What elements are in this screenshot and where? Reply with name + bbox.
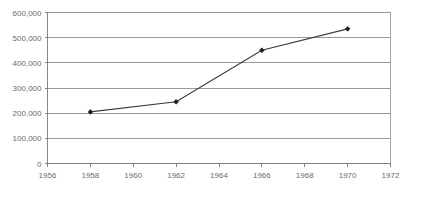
y-axis-tick-label: 600,000 xyxy=(13,9,42,18)
y-axis-tick-label: 500,000 xyxy=(13,34,42,43)
y-axis-tick-label: 200,000 xyxy=(13,109,42,118)
data-point-marker xyxy=(259,48,264,53)
y-axis-tick-label: 300,000 xyxy=(13,84,42,93)
x-axis-tick-label: 1962 xyxy=(167,171,185,180)
data-series xyxy=(90,29,347,112)
y-axis-tick-labels: 600,000500,000400,000300,000200,000100,0… xyxy=(13,9,42,169)
chart-canvas: 600,000500,000400,000300,000200,000100,0… xyxy=(0,0,422,198)
y-axis-tick-label: 0 xyxy=(37,160,42,169)
data-point-markers xyxy=(88,26,350,114)
x-axis-tick-labels: 195619581960196219641966196819701972 xyxy=(39,171,400,180)
x-axis-tick-label: 1964 xyxy=(210,171,228,180)
x-axis-tick-label: 1960 xyxy=(124,171,142,180)
data-point-marker xyxy=(174,99,179,104)
gridlines xyxy=(48,13,391,164)
x-axis-tick-label: 1970 xyxy=(339,171,357,180)
y-axis-tick-label: 400,000 xyxy=(13,59,42,68)
x-axis-tick-label: 1966 xyxy=(253,171,271,180)
series-line xyxy=(90,29,347,112)
data-point-marker xyxy=(88,110,93,115)
x-axis-tick-label: 1968 xyxy=(296,171,314,180)
data-point-marker xyxy=(345,26,350,31)
line-chart: 600,000500,000400,000300,000200,000100,0… xyxy=(0,0,422,198)
x-axis-tick-label: 1972 xyxy=(382,171,400,180)
x-axis-tick-label: 1956 xyxy=(39,171,57,180)
y-axis-tick-label: 100,000 xyxy=(13,134,42,143)
x-axis-tick-label: 1958 xyxy=(81,171,99,180)
